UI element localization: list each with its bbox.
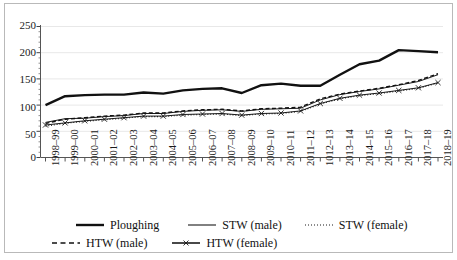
legend-swatch-htw-female	[171, 237, 201, 249]
x-tick-label-15: 2013–14	[344, 129, 355, 166]
figure-container: 250 200 150 100 50 0 1998–991999–002000–…	[0, 0, 457, 260]
legend-item-ploughing[interactable]: Ploughing	[75, 216, 159, 234]
x-tick-label-8: 2006–07	[207, 129, 218, 166]
legend-swatch-stw-female	[304, 219, 334, 231]
legend-item-htw-male[interactable]: HTW (male)	[51, 234, 147, 252]
x-tick-label-9: 2007–08	[226, 129, 237, 166]
legend-item-stw-male[interactable]: STW (male)	[187, 216, 281, 234]
legend-swatch-htw-male	[51, 237, 81, 249]
legend-swatch-stw-male	[187, 219, 217, 231]
x-tick-label-3: 2001–02	[108, 129, 119, 166]
legend-item-htw-female[interactable]: HTW (female)	[171, 234, 277, 252]
x-tick-label-1: 1999–00	[69, 129, 80, 166]
x-tick-label-4: 2002–03	[128, 129, 139, 166]
x-tick-label-11: 2009–10	[265, 129, 276, 166]
x-tick-label-18: 2016–17	[403, 129, 414, 166]
x-tick-label-5: 2003–04	[148, 129, 159, 166]
x-tick-label-2: 2000–01	[89, 129, 100, 166]
x-tick-label-17: 2015–16	[383, 129, 394, 166]
x-tick-label-6: 2004–05	[167, 129, 178, 166]
x-tick-label-14: 1012–13	[324, 129, 335, 166]
chart-legend: Ploughing STW (male) STW (female) HTW (m…	[28, 216, 448, 252]
legend-label-ploughing: Ploughing	[110, 218, 159, 233]
x-tick-label-16: 2014–15	[364, 129, 375, 166]
x-tick-label-12: 2010–11	[285, 129, 296, 165]
legend-swatch-ploughing	[75, 219, 105, 231]
legend-label-htw-female: HTW (female)	[206, 236, 277, 251]
x-tick-label-13: 2011–12	[305, 129, 316, 165]
x-tick-label-10: 2008–09	[246, 129, 257, 166]
legend-item-stw-female[interactable]: STW (female)	[304, 216, 408, 234]
x-tick-label-0: 1998–99	[50, 129, 61, 166]
legend-label-stw-male: STW (male)	[222, 218, 281, 233]
legend-label-stw-female: STW (female)	[339, 218, 408, 233]
x-tick-label-20: 2018–19	[442, 129, 453, 166]
x-tick-label-7: 2005–06	[187, 129, 198, 166]
x-tick-label-19: 2017–18	[422, 129, 433, 166]
legend-label-htw-male: HTW (male)	[86, 236, 147, 251]
